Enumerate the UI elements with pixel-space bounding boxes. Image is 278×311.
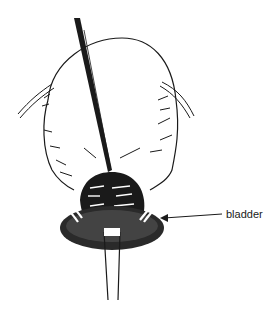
shading-left bbox=[42, 94, 96, 176]
instrument-highlight bbox=[84, 30, 110, 165]
arrowhead bbox=[160, 214, 168, 222]
shading-right bbox=[120, 96, 172, 158]
label-bladder: bladder bbox=[226, 208, 263, 220]
instrument bbox=[74, 18, 112, 172]
bladder-illustration: bladder bbox=[0, 0, 278, 311]
illustration-svg bbox=[0, 0, 278, 311]
vas-left bbox=[18, 84, 54, 118]
label-leader bbox=[164, 214, 222, 218]
